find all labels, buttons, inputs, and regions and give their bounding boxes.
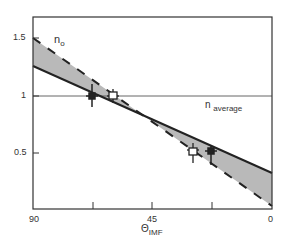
n-o-dashed-line xyxy=(33,38,272,206)
x-axis-title: ΘIMF xyxy=(141,223,163,234)
n-o-subscript: o xyxy=(60,39,64,48)
fit-line xyxy=(33,66,272,173)
theta-subscript: IMF xyxy=(149,228,163,237)
y-tick-label-1: 1 xyxy=(21,90,26,100)
n-average-subscript: average xyxy=(213,104,242,113)
chart-canvas xyxy=(0,0,283,242)
n-o-label: no xyxy=(54,33,65,45)
theta-symbol: Θ xyxy=(141,223,149,234)
x-ticks xyxy=(93,202,212,209)
n-average-symbol: n xyxy=(205,99,211,110)
y-tick-label-0.5: 0.5 xyxy=(14,147,27,157)
x-tick-label-0: 0 xyxy=(268,214,273,224)
n-average-label: n average xyxy=(205,99,242,110)
y-tick-label-1.5: 1.5 xyxy=(13,32,26,42)
x-tick-label-90: 90 xyxy=(29,214,39,224)
